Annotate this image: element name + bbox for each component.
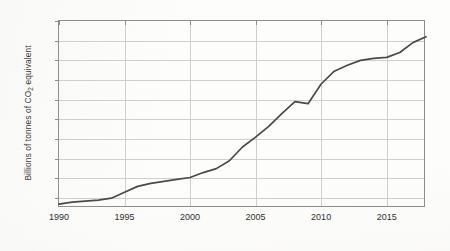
y-axis-label-subscript: 2 [27,87,34,91]
emissions-line [59,37,426,204]
y-axis-label-pre: Billions of tonnes of CO [23,91,33,181]
x-tick-label: 2010 [298,212,344,222]
chart-figure: Billions of tonnes of CO2 equivalent 303… [0,0,450,251]
x-tick-label: 1990 [36,212,82,222]
data-series-line [59,21,426,208]
plot-area: 30323436384042444648 1990199520002005201… [58,20,425,207]
x-tick-label: 2005 [233,212,279,222]
x-tick-label: 2000 [167,212,213,222]
y-axis-label-post: equivalent [23,45,33,87]
x-tick-label: 1995 [102,212,148,222]
y-axis-label: Billions of tonnes of CO2 equivalent [23,23,33,203]
x-tick-label: 2015 [364,212,410,222]
